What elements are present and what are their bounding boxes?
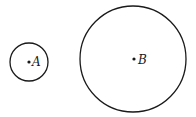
circles-diagram: A B [0, 0, 196, 117]
center-point-a [27, 60, 30, 63]
label-b: B [137, 53, 147, 67]
circle-b-group: B [80, 6, 186, 112]
circle-a-group: A [10, 43, 48, 81]
label-a: A [31, 55, 41, 69]
center-point-b [132, 57, 135, 60]
